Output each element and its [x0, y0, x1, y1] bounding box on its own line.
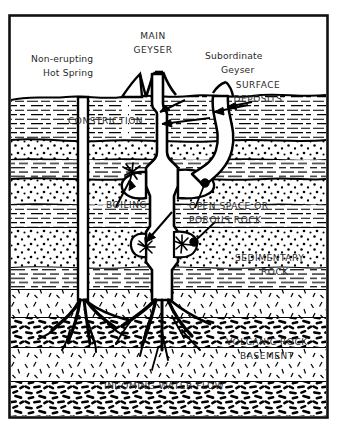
diagram-canvas: Non-erupting Hot Spring MAIN GEYSER Subo… — [0, 0, 338, 428]
label-main-geyser-line1: MAIN — [140, 31, 166, 41]
label-constriction: CONSTRICTION — [68, 116, 143, 126]
label-non-erupting-hot-spring-line1: Non-erupting — [31, 53, 93, 64]
label-sedimentary-rock-line1: SEDIMENTARY — [235, 253, 304, 263]
label-open-space-line1: OPEN SPACE OR — [189, 201, 269, 211]
label-subordinate-geyser-line2: Geyser — [221, 64, 254, 75]
label-boiling: BOILING — [106, 200, 147, 210]
label-volcanic-rock-line1: VOLCANIC ROCK — [226, 337, 308, 347]
label-subordinate-geyser-line1: Subordinate — [205, 50, 263, 61]
hot-spring-conduit — [78, 97, 88, 300]
label-incoming-water-flow: INCOMING WATER FLOW — [104, 381, 224, 391]
label-main-geyser-line2: GEYSER — [133, 45, 172, 55]
label-non-erupting-hot-spring-line2: Hot Spring — [43, 67, 93, 78]
label-surface-deposits-line2: DEPOSITS — [233, 94, 282, 104]
label-volcanic-rock-line2: BASEMENT — [240, 351, 294, 361]
geyser-cross-section-figure: Non-erupting Hot Spring MAIN GEYSER Subo… — [0, 0, 338, 428]
label-sedimentary-rock-line2: ROCK — [261, 267, 289, 277]
label-open-space-line2: POROUS ROCK — [189, 215, 262, 225]
label-surface-deposits-line1: SURFACE — [236, 80, 281, 90]
